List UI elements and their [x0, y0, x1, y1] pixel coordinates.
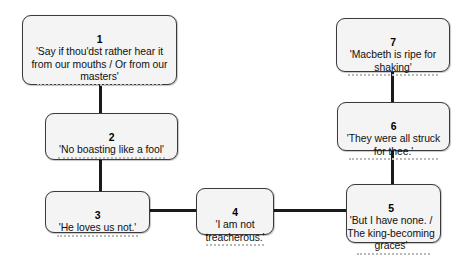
- node-2-number: 2: [109, 132, 115, 143]
- connector-node1-node2: [99, 84, 102, 115]
- node-5-quote: 'But I have none. / The king-becoming gr…: [347, 215, 435, 251]
- node-3-note-line[interactable]: [57, 235, 139, 237]
- node-2-note-line[interactable]: [58, 157, 164, 159]
- node-6-number: 6: [391, 121, 397, 132]
- flowchart-node-3[interactable]: 3 'He loves us not.': [45, 191, 150, 233]
- node-2-quote: 'No boasting like a fool': [59, 144, 164, 155]
- node-6-note-line[interactable]: [349, 158, 438, 160]
- node-5-text: 5 'But I have none. / The king-becoming …: [345, 190, 438, 253]
- connector-node3-node4: [149, 209, 199, 212]
- node-4-note-line[interactable]: [206, 244, 264, 246]
- node-7-note-line[interactable]: [348, 74, 438, 76]
- node-5-number: 5: [388, 203, 394, 214]
- flowchart-node-6[interactable]: 6 'They were all struck for thee.': [337, 102, 450, 151]
- flowchart-node-1[interactable]: 1 'Say if thou'dst rather hear it from o…: [22, 15, 177, 85]
- connector-node4-node5: [273, 209, 347, 212]
- node-3-quote: 'He loves us not.': [59, 222, 137, 233]
- node-1-number: 1: [97, 34, 103, 45]
- connector-node2-node3: [99, 159, 102, 194]
- flowchart-node-2[interactable]: 2 'No boasting like a fool': [45, 113, 178, 160]
- node-1-note-line[interactable]: [37, 84, 163, 86]
- flowchart-node-5[interactable]: 5 'But I have none. / The king-becoming …: [346, 184, 441, 243]
- node-7-text: 7 'Macbeth is ripe for shaking': [342, 24, 444, 74]
- node-6-text: 6 'They were all struck for thee.': [343, 108, 444, 158]
- node-1-text: 1 'Say if thou'dst rather hear it from o…: [28, 21, 171, 84]
- node-1-quote: 'Say if thou'dst rather hear it from our…: [32, 46, 168, 82]
- node-7-quote: 'Macbeth is ripe for shaking': [350, 49, 436, 73]
- node-6-quote: 'They were all struck for thee.': [347, 133, 440, 157]
- flowchart-node-4[interactable]: 4 'I am not treacherous.': [196, 188, 274, 235]
- node-4-text: 4 'I am not treacherous.': [202, 194, 268, 244]
- node-7-number: 7: [390, 37, 396, 48]
- node-4-number: 4: [232, 207, 238, 218]
- flowchart-node-7[interactable]: 7 'Macbeth is ripe for shaking': [336, 18, 450, 72]
- node-4-quote: 'I am not treacherous.': [205, 219, 264, 243]
- node-3-number: 3: [95, 210, 101, 221]
- node-3-text: 3 'He loves us not.': [51, 197, 144, 235]
- node-2-text: 2 'No boasting like a fool': [51, 119, 172, 157]
